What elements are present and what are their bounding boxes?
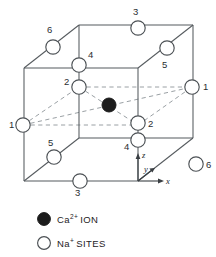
na-site-label: 4 <box>88 49 93 60</box>
legend-element: Ca <box>57 214 70 225</box>
legend-element: Na <box>57 238 70 249</box>
na-site-label: 6 <box>206 159 211 170</box>
na-site-circle-3 <box>131 21 145 35</box>
na-site: 6 <box>46 24 60 54</box>
dashed-edge-diagonal-back <box>23 87 79 125</box>
legend-label: Ca2+ION <box>57 213 98 225</box>
crystal-structure-figure: 635421124563 zyx Ca2+IONNa+SITES <box>0 0 216 257</box>
na-site: 5 <box>160 41 174 70</box>
na-site: 1 <box>185 80 208 94</box>
axis-triad <box>136 153 164 183</box>
na-site: 6 <box>189 157 211 171</box>
na-site-label: 5 <box>162 59 167 70</box>
legend-charge: + <box>70 237 74 244</box>
na-site-circle-6 <box>46 40 60 54</box>
na-site-label: 4 <box>124 141 129 152</box>
legend-filled-circle-icon <box>38 213 51 226</box>
cube-diagram: 635421124563 zyx Ca2+IONNa+SITES <box>0 0 216 257</box>
legend-ca-ion: Ca2+ION <box>38 213 99 226</box>
na-site-label: 2 <box>64 76 69 87</box>
na-site-circle-2 <box>72 80 86 94</box>
axis-z-label: z <box>141 150 146 160</box>
na-site-label: 2 <box>148 118 153 129</box>
legend-group: Ca2+IONNa+SITES <box>38 213 106 250</box>
na-site-circle-1 <box>185 80 199 94</box>
na-site-label: 6 <box>47 24 52 35</box>
legend-charge: 2+ <box>70 213 78 220</box>
na-site-label: 3 <box>75 187 80 198</box>
na-site-label: 3 <box>133 6 138 17</box>
ca-ion-marker <box>102 98 116 112</box>
legend-label: Na+SITES <box>57 237 106 249</box>
legend-suffix: ION <box>80 214 98 225</box>
legend-na-sites: Na+SITES <box>38 237 106 250</box>
axis-y-label: y <box>143 164 148 174</box>
na-site-label: 1 <box>9 119 14 130</box>
axis-z-arrow <box>136 153 141 159</box>
na-site: 3 <box>73 174 87 198</box>
na-site: 2 <box>64 76 86 94</box>
na-site-label: 1 <box>203 81 208 92</box>
na-site-circle-4 <box>72 58 86 72</box>
na-site-circle-1 <box>16 118 30 132</box>
axis-x-label: x <box>165 176 170 186</box>
legend-open-circle-icon <box>38 237 51 250</box>
na-site: 3 <box>131 6 145 35</box>
na-site: 5 <box>47 137 61 164</box>
na-site: 1 <box>9 118 30 132</box>
legend-suffix: SITES <box>76 238 105 249</box>
na-site-label: 5 <box>48 137 53 148</box>
na-site: 2 <box>131 116 153 130</box>
na-site-circle-2 <box>131 116 145 130</box>
na-site-circle-4 <box>131 133 145 147</box>
na-site-circle-6 <box>189 157 203 171</box>
na-site-circle-5 <box>160 41 174 55</box>
na-site: 4 <box>72 49 93 72</box>
na-site-circle-5 <box>47 150 61 164</box>
axis-x-arrow <box>158 179 164 184</box>
